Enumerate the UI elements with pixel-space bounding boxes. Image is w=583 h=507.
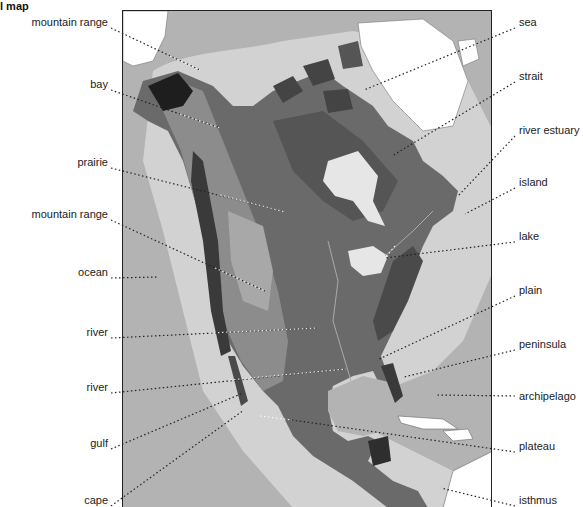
label-mountain-range-1: mountain range <box>32 16 108 29</box>
label-ocean: ocean <box>78 266 108 279</box>
label-bay: bay <box>90 78 108 91</box>
label-cape: cape <box>84 494 108 507</box>
figure-title: l map <box>0 0 29 12</box>
cuba <box>398 416 458 429</box>
label-prairie: prairie <box>77 156 108 169</box>
label-peninsula: peninsula <box>519 338 566 351</box>
label-mountain-range-2: mountain range <box>32 208 108 221</box>
label-river-2: river <box>87 381 108 394</box>
hispaniola <box>443 429 473 441</box>
siberia-corner <box>123 11 168 66</box>
label-lake: lake <box>519 230 539 243</box>
label-strait: strait <box>519 70 543 83</box>
label-sea: sea <box>519 16 537 29</box>
label-island: island <box>519 176 548 189</box>
north-america-map-graphic <box>123 11 492 507</box>
label-plateau: plateau <box>519 440 555 453</box>
label-river-estuary: river estuary <box>519 124 580 137</box>
label-archipelago: archipelago <box>519 390 576 403</box>
arctic-islands-3 <box>323 89 353 113</box>
label-river-1: river <box>87 326 108 339</box>
label-plain: plain <box>519 284 542 297</box>
relief-map <box>122 10 492 507</box>
label-isthmus: isthmus <box>519 494 557 507</box>
label-gulf: gulf <box>90 437 108 450</box>
